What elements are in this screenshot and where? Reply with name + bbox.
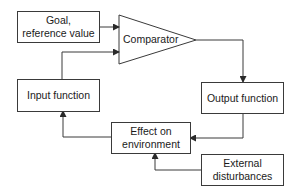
input-function-label: Input function [27, 89, 90, 102]
edge-effect-to-input [63, 111, 111, 137]
external-label-line1: External [213, 157, 273, 170]
comparator-label: Comparator [123, 33, 178, 45]
effect-label-line1: Effect on [122, 125, 180, 138]
effect-label-line2: environment [122, 138, 180, 151]
edge-comparator-to-output [196, 40, 243, 82]
external-disturbances-box: External disturbances [201, 154, 284, 186]
edge-external-to-effect [155, 153, 201, 170]
edge-input-to-comparator [62, 52, 119, 79]
input-function-box: Input function [17, 79, 100, 112]
edge-output-to-effect [190, 113, 243, 138]
output-function-box: Output function [201, 82, 284, 114]
goal-label-line1: Goal, [22, 14, 94, 27]
goal-label-line2: reference value [22, 27, 94, 40]
external-label-line2: disturbances [213, 170, 273, 183]
output-function-label: Output function [207, 92, 278, 105]
effect-on-environment-box: Effect on environment [111, 122, 191, 154]
goal-reference-box: Goal, reference value [17, 11, 100, 43]
